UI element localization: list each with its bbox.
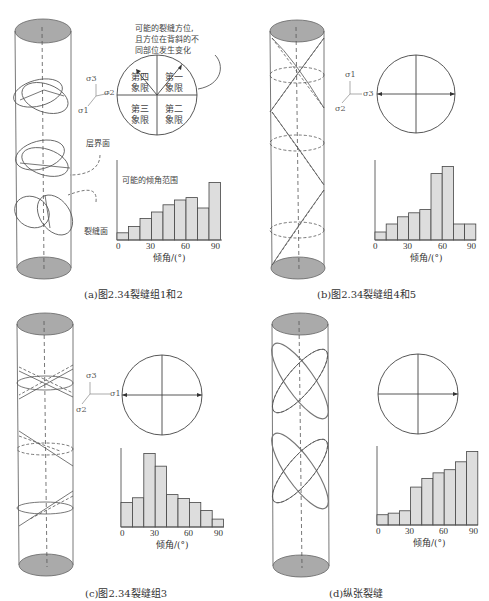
x-tick-30-c: 30 [150, 528, 159, 538]
x-tick-90-c: 90 [214, 528, 223, 538]
quadrant-3-label: 第三象限 [128, 104, 152, 126]
dip-range-label: 可能的倾角范围 [122, 174, 178, 185]
histogram-bar [455, 462, 466, 525]
histogram-bar [377, 515, 388, 525]
x-axis-label-b: 倾角/(°) [410, 251, 443, 264]
quadrant-4-label: 第四象限 [128, 72, 152, 94]
sigma-up-c: σ3 [86, 371, 97, 380]
core-cylinder-b [245, 0, 489, 300]
sigma-up-a: σ3 [86, 74, 97, 83]
x-tick-30-d: 30 [405, 526, 414, 536]
panel-d: 0 30 60 90 倾角/(°) (d)纵张裂缝 [245, 301, 489, 601]
bedding-plane-label: 层界面 [86, 137, 110, 148]
histogram-bar [140, 218, 152, 240]
histogram-bar [201, 510, 212, 527]
panel-b: σ1 σ3 σ2 0 30 60 90 倾角/(°) (b)图2.34裂缝组4和… [245, 0, 489, 300]
histogram-bar [189, 503, 200, 527]
x-tick-0-a: 0 [116, 241, 121, 251]
histogram-bar [175, 200, 187, 240]
histogram-bar [444, 470, 455, 525]
x-tick-60-d: 60 [439, 526, 448, 536]
orientation-note-line-2: 且方位在背斜的不 [135, 33, 199, 44]
histogram-a [117, 160, 222, 240]
quadrant-1-label: 第一象限 [162, 72, 186, 94]
histogram-bar [167, 495, 178, 527]
sigma-right-c: σ1 [110, 389, 121, 398]
sigma-down-b: σ2 [335, 104, 346, 113]
sigma-down-a: σ1 [78, 106, 89, 115]
x-tick-30-a: 30 [146, 241, 155, 251]
histogram-bar [178, 499, 189, 527]
core-cylinder-a [0, 0, 244, 300]
sigma-down-c: σ2 [76, 405, 87, 414]
histogram-bar [467, 452, 478, 525]
sigma-up-b: σ1 [345, 70, 356, 79]
histogram-bar [422, 478, 433, 525]
histogram-bar [411, 487, 422, 525]
caption-d: (d)纵张裂缝 [329, 585, 383, 600]
x-tick-0-d: 0 [376, 526, 381, 536]
histogram-bar [420, 210, 431, 240]
histogram-bar [433, 473, 444, 525]
orientation-note-line-3: 同部位发生变化 [135, 44, 191, 55]
core-cylinder-d [245, 301, 489, 601]
histogram-bar [129, 226, 141, 240]
fracture-plane-label: 裂缝面 [84, 225, 108, 236]
histogram-bar [388, 513, 399, 525]
core-cylinder-c [0, 301, 244, 601]
histogram-bar [212, 519, 223, 527]
panel-c: σ3 σ1 σ2 0 30 60 90 倾角/(°) (c)图2.34裂缝组3 [0, 301, 244, 601]
x-tick-90-b: 90 [467, 241, 476, 251]
histogram-b [375, 160, 476, 240]
x-tick-90-a: 90 [211, 241, 220, 251]
histogram-bar [152, 212, 164, 240]
histogram-bar [465, 224, 476, 240]
x-tick-90-d: 90 [469, 526, 478, 536]
histogram-bar [163, 205, 175, 240]
panel-a: 可能的裂缝方位, 且方位在背斜的不 同部位发生变化 第四象限 第一象限 第三象限… [0, 0, 244, 300]
sigma-right-b: σ3 [363, 89, 374, 98]
histogram-bar [386, 224, 397, 240]
histogram-bar [409, 213, 420, 240]
histogram-bar [431, 174, 442, 240]
x-axis-label-c: 倾角/(°) [156, 538, 189, 551]
caption-b: (b)图2.34裂缝组4和5 [317, 286, 416, 301]
histogram-bar [144, 454, 155, 527]
histogram-bar [186, 198, 198, 240]
x-tick-60-b: 60 [438, 241, 447, 251]
x-axis-label-a: 倾角/(°) [153, 251, 186, 264]
x-axis-label-d: 倾角/(°) [413, 536, 446, 549]
histogram-bar [375, 232, 386, 240]
histogram-bar [132, 498, 143, 527]
orientation-note-line-1: 可能的裂缝方位, [135, 22, 194, 33]
histogram-d [377, 446, 478, 525]
histogram-bar [453, 224, 464, 240]
histogram-bar [117, 233, 129, 240]
caption-c: (c)图2.34裂缝组3 [85, 585, 167, 600]
x-tick-30-b: 30 [403, 241, 412, 251]
histogram-bar [442, 166, 453, 240]
histogram-bar [121, 503, 132, 527]
histogram-c [121, 448, 224, 527]
caption-a: (a)图2.34裂缝组1和2 [84, 286, 183, 301]
x-tick-60-c: 60 [184, 528, 193, 538]
x-tick-0-c: 0 [120, 528, 125, 538]
histogram-bar [198, 208, 210, 240]
histogram-bar [209, 182, 221, 240]
x-tick-60-a: 60 [181, 241, 190, 251]
histogram-bar [397, 217, 408, 240]
histogram-bar [155, 466, 166, 527]
sigma-right-a: σ2 [104, 88, 115, 97]
x-tick-0-b: 0 [373, 241, 378, 251]
quadrant-2-label: 第二象限 [162, 104, 186, 126]
histogram-bar [399, 511, 410, 525]
